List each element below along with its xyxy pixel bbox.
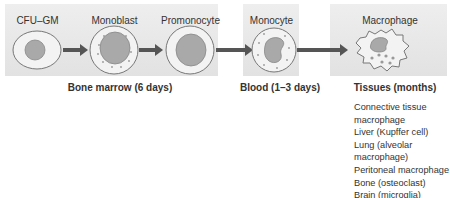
monocyte-cell bbox=[252, 28, 296, 72]
macrophage-cell bbox=[356, 29, 409, 71]
tissue-macrophage-list: Connective tissue macrophage Liver (Kupf… bbox=[354, 101, 450, 198]
arrow-icon bbox=[216, 44, 253, 56]
arrow-icon bbox=[297, 44, 348, 56]
caption-tissues: Tissues (months) bbox=[350, 82, 440, 93]
caption-bone-marrow: Bone marrow (6 days) bbox=[60, 82, 180, 93]
list-item: Peritoneal macrophage bbox=[354, 164, 450, 177]
list-item: Liver (Kupffer cell) bbox=[354, 126, 450, 139]
arrow-icon bbox=[139, 44, 163, 56]
cfu-gm-cell bbox=[13, 31, 61, 69]
stage-label-cfu-gm: CFU–GM bbox=[10, 15, 65, 26]
monoblast-cell bbox=[90, 26, 138, 74]
list-item: Lung (alveolar macrophage) bbox=[354, 139, 450, 164]
arrow-icon bbox=[63, 44, 88, 56]
list-item: Connective tissue macrophage bbox=[354, 101, 450, 126]
caption-blood: Blood (1–3 days) bbox=[240, 82, 310, 93]
stage-label-promonocyte: Promonocyte bbox=[158, 15, 223, 26]
list-item: Brain (microglia) bbox=[354, 189, 450, 198]
stage-label-monoblast: Monoblast bbox=[87, 15, 142, 26]
list-item: Bone (osteoclast) bbox=[354, 177, 450, 190]
stage-label-macrophage: Macrophage bbox=[355, 15, 425, 26]
promonocyte-cell bbox=[166, 26, 214, 74]
stage-label-monocyte: Monocyte bbox=[244, 15, 299, 26]
